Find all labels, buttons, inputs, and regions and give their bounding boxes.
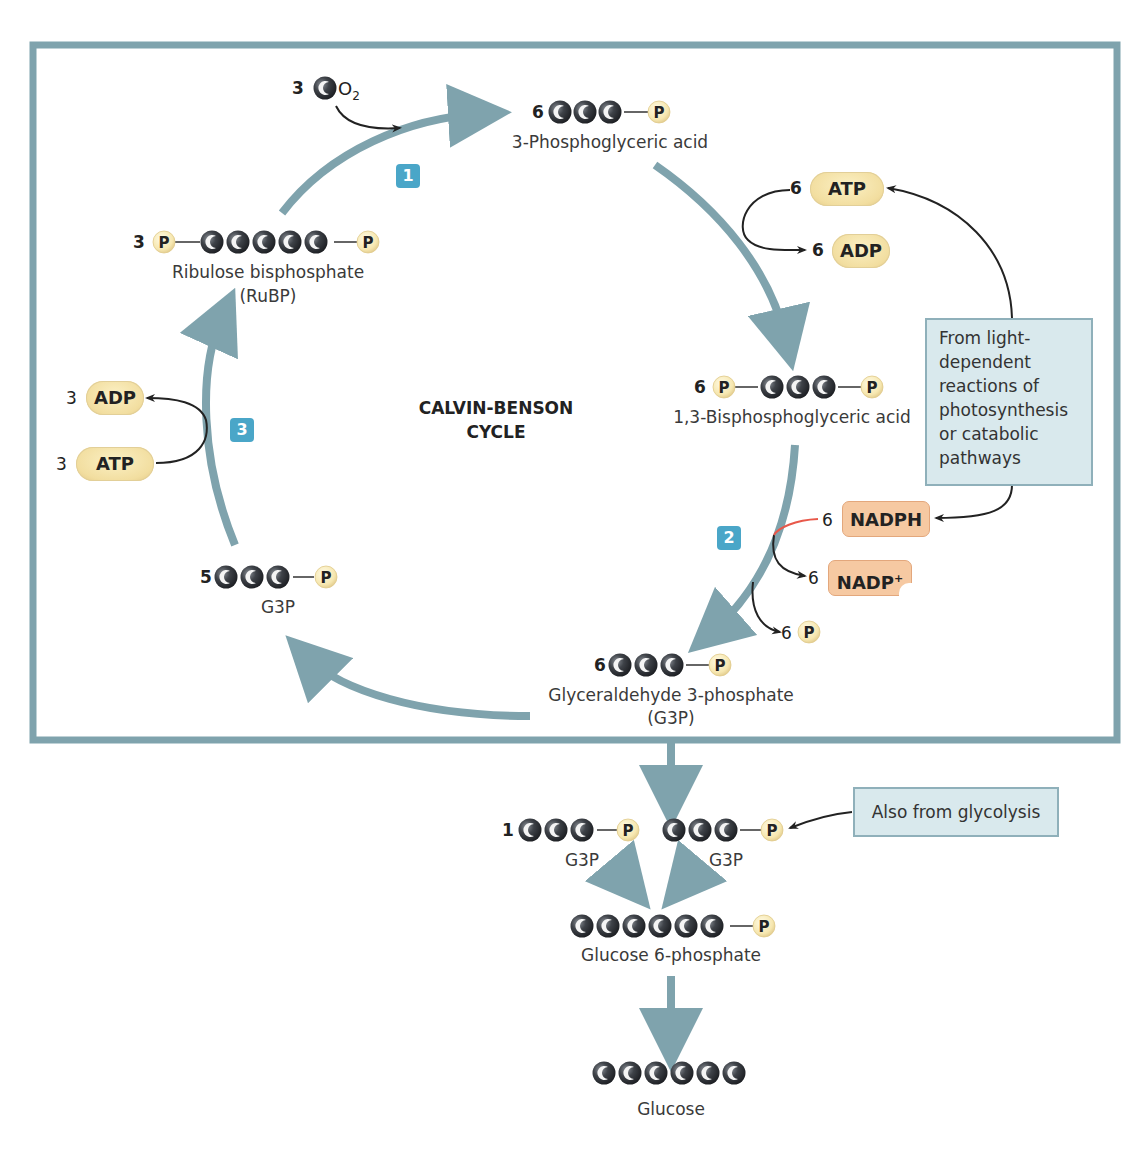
co2-formula: O2 bbox=[338, 78, 360, 103]
adp-step1-count: 6 bbox=[812, 240, 824, 260]
atp-step3-count: 3 bbox=[56, 454, 67, 474]
nadph-badge: NADPH bbox=[842, 501, 930, 537]
co2-count: 3 bbox=[292, 78, 304, 98]
pi-release-count: 6 bbox=[781, 623, 792, 643]
arrow-glycolysis-in bbox=[790, 812, 852, 828]
g3p-out-count: 1 bbox=[502, 820, 514, 840]
calvin-benson-diagram: P bbox=[0, 0, 1134, 1154]
co2-o: O bbox=[338, 78, 352, 99]
rubp-abbrev: (RuBP) bbox=[239, 286, 296, 306]
arrow-light-to-atp bbox=[888, 188, 1012, 318]
note-line: photosynthesis bbox=[939, 398, 1079, 422]
light-reactions-note: From light- dependent reactions of photo… bbox=[925, 318, 1093, 486]
g3p-out-label: G3P bbox=[565, 850, 599, 870]
arrow-pga-to-bpga bbox=[655, 165, 786, 340]
diagram-graphics: P bbox=[0, 0, 1134, 1154]
g3p-glycolysis-label: G3P bbox=[709, 850, 743, 870]
reaction-arrows bbox=[147, 106, 1012, 828]
g3p-main-label: Glyceraldehyde 3-phosphate bbox=[548, 685, 794, 705]
nadp-count: 6 bbox=[808, 568, 819, 588]
atp-step3-badge: ATP bbox=[76, 447, 154, 481]
bpga-label: 1,3-Bisphosphoglyceric acid bbox=[673, 407, 911, 427]
arrow-co2-in bbox=[336, 106, 400, 128]
atp-step1-count: 6 bbox=[790, 178, 802, 198]
cycle-title-line2: CYCLE bbox=[419, 420, 574, 444]
pga-count: 6 bbox=[532, 102, 544, 122]
arrow-g3p2-to-g6p bbox=[682, 866, 698, 885]
rubp-label: Ribulose bisphosphate bbox=[172, 262, 364, 282]
note-line: From light- bbox=[939, 326, 1079, 350]
bonds bbox=[175, 112, 862, 926]
cycle-title-line1: CALVIN-BENSON bbox=[419, 396, 574, 420]
nadp-label: NADP bbox=[837, 572, 894, 593]
g3p-recycle-molecule-icon bbox=[215, 566, 338, 589]
co2-subscript: 2 bbox=[352, 89, 360, 103]
g3p-out-molecule-icon bbox=[519, 819, 640, 842]
pga-label: 3-Phosphoglyceric acid bbox=[512, 132, 708, 152]
glycolysis-note: Also from glycolysis bbox=[853, 787, 1059, 837]
g6p-label: Glucose 6-phosphate bbox=[581, 945, 761, 965]
g3p-glycolysis-molecule-icon bbox=[663, 819, 784, 842]
pi-release-icon bbox=[798, 621, 820, 643]
glucose-label: Glucose bbox=[637, 1099, 705, 1119]
nadph-count: 6 bbox=[822, 510, 833, 530]
note-line: dependent bbox=[939, 350, 1079, 374]
note-line: or catabolic bbox=[939, 422, 1079, 446]
g3p-main-count: 6 bbox=[594, 655, 606, 675]
nadp-sup: + bbox=[894, 572, 903, 585]
adp-step3-badge: ADP bbox=[86, 381, 144, 415]
atp-step1-badge: ATP bbox=[810, 172, 884, 206]
nadp-badge: NADP+ bbox=[828, 560, 912, 596]
bpga-count: 6 bbox=[694, 377, 706, 397]
step-badge-2: 2 bbox=[717, 526, 741, 550]
arrow-g3p1-to-g6p bbox=[614, 866, 630, 885]
glucose-molecule-icon bbox=[593, 1062, 746, 1085]
step-badge-1: 1 bbox=[396, 164, 420, 188]
arrow-g3p-to-g3p5 bbox=[308, 658, 530, 716]
arrow-light-to-nadph bbox=[936, 485, 1012, 518]
adp-step3-count: 3 bbox=[66, 388, 77, 408]
note-line: pathways bbox=[939, 446, 1079, 470]
g3p-main-abbrev: (G3P) bbox=[647, 708, 695, 728]
step-badge-3: 3 bbox=[230, 418, 254, 442]
g3p-recycle-count: 5 bbox=[200, 567, 212, 587]
cycle-title: CALVIN-BENSON CYCLE bbox=[419, 396, 574, 444]
co2-carbon-icon bbox=[314, 77, 337, 100]
adp-step1-badge: ADP bbox=[832, 234, 890, 268]
note-line: reactions of bbox=[939, 374, 1079, 398]
g3p-main-molecule-icon bbox=[609, 654, 732, 677]
pga-molecule-icon bbox=[549, 101, 671, 124]
arrow-atp-adp-step1 bbox=[743, 190, 805, 250]
arrow-atp-adp-step3 bbox=[147, 398, 207, 463]
arrow-pi-release bbox=[752, 582, 780, 632]
g3p-recycle-label: G3P bbox=[261, 597, 295, 617]
rubp-count: 3 bbox=[133, 232, 145, 252]
